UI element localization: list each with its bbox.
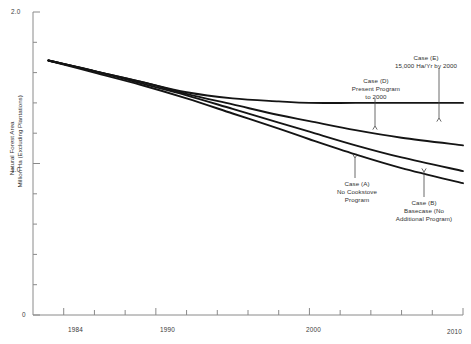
y-tick-label-0: 0 [22,311,26,318]
annotation-case-b-line3: Additional Program) [380,215,468,223]
chart-plot-area [0,0,471,344]
annotation-case-e: Case (E) 15,000 Ha/Yr by 2000 [383,54,469,70]
x-tick-label-2010: 2010 [447,328,462,335]
annotation-case-e-line1: Case (E) [383,54,469,62]
annotation-case-e-line2: 15,000 Ha/Yr by 2000 [383,62,469,70]
y-axis-label-line1: Natural Forest Area [8,109,16,187]
annotation-case-b: Case (B) Basecase (No Additional Program… [380,199,468,224]
forest-area-line-chart: Natural Forest Area Million Ha (Excludin… [0,0,471,344]
y-tick-label-1: 1.0 [11,166,20,173]
x-tick-label-1984: 1984 [68,326,83,333]
annotation-case-a-line2: No Cookstove [321,188,393,196]
annotation-leader-arrow [437,68,441,122]
annotation-case-b-line1: Case (B) [380,199,468,207]
y-axis-label-line2: Million Ha (Excluding Plantations) [16,109,24,187]
annotation-case-d-line3: to 2000 [339,93,413,101]
x-tick-label-1990: 1990 [160,326,175,333]
annotation-case-d-line2: Present Program [339,85,413,93]
x-tick-label-2000: 2000 [306,326,321,333]
annotation-case-d-line1: Case (D) [339,77,413,85]
annotation-case-b-line2: Basecase (No [380,207,468,215]
annotation-leader-arrow [353,154,357,178]
y-axis-label: Natural Forest Area Million Ha (Excludin… [8,109,25,187]
annotation-case-d: Case (D) Present Program to 2000 [339,77,413,102]
y-tick-label-2: 2.0 [11,8,20,15]
annotation-case-a-line1: Case (A) [321,180,393,188]
